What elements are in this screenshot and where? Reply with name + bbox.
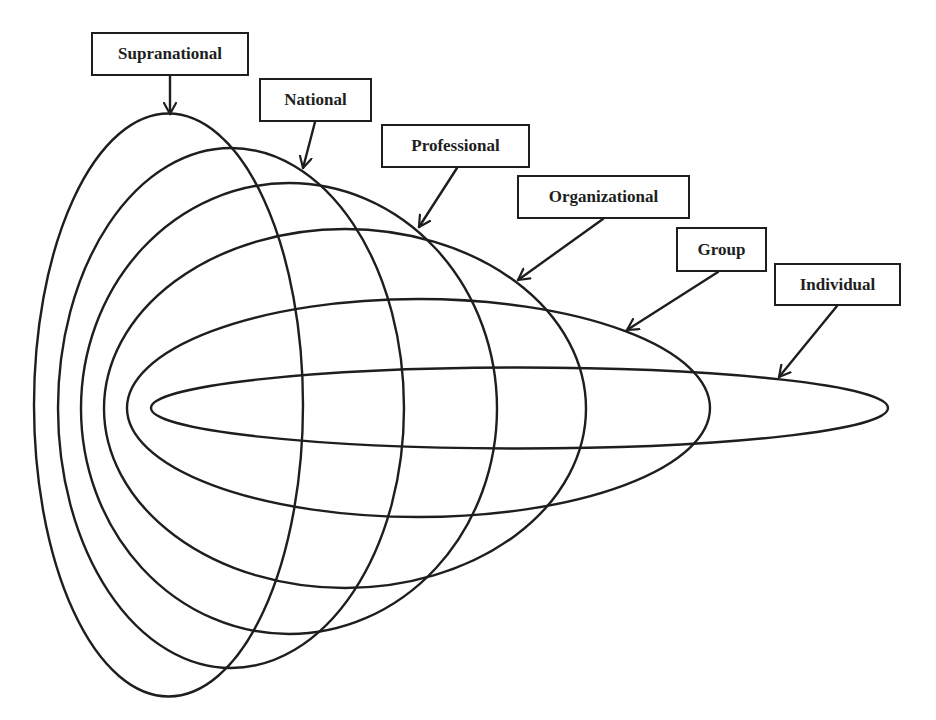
nested-levels-diagram <box>0 0 936 720</box>
level-ellipse-group <box>127 299 710 517</box>
label-organizational: Organizational <box>517 175 690 219</box>
label-text: Professional <box>411 136 499 156</box>
label-text: Group <box>698 240 746 260</box>
label-text: Organizational <box>549 187 659 207</box>
level-ellipse-supranational <box>34 114 303 697</box>
level-shapes <box>34 114 888 697</box>
diagram-canvas: Supranational National Professional Orga… <box>0 0 936 720</box>
label-individual: Individual <box>774 263 901 306</box>
arrow-icon-group <box>627 272 718 330</box>
level-ellipse-organizational <box>104 229 586 588</box>
arrow-icon-individual <box>779 306 837 377</box>
label-group: Group <box>676 227 767 272</box>
level-ellipse-professional <box>81 183 497 634</box>
label-text: National <box>284 90 346 110</box>
arrow-icon-professional <box>419 168 457 227</box>
label-text: Supranational <box>118 44 222 64</box>
label-national: National <box>259 78 372 122</box>
level-ellipse-individual <box>151 368 888 449</box>
arrow-icon-national <box>303 122 315 168</box>
arrow-icon-organizational <box>518 219 603 280</box>
label-supranational: Supranational <box>91 32 249 76</box>
label-text: Individual <box>800 275 876 295</box>
label-professional: Professional <box>381 124 530 168</box>
level-ellipse-national <box>58 148 404 668</box>
